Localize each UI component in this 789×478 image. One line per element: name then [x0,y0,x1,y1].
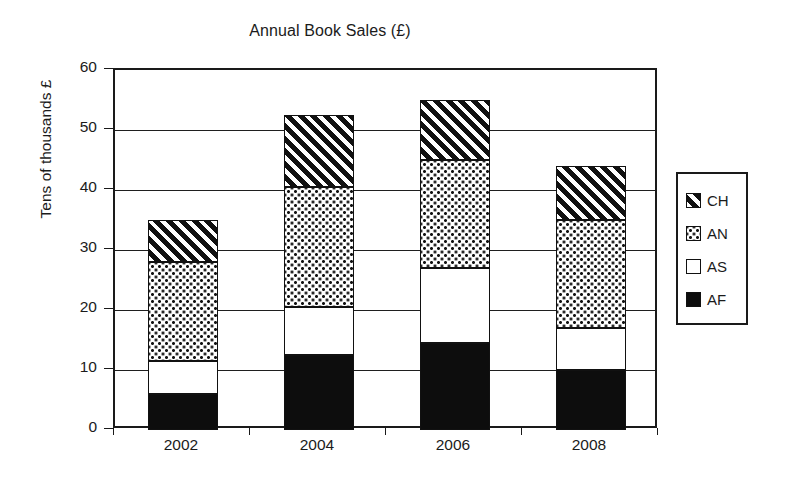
bar-segment-as[interactable] [148,361,218,394]
bar-segment-af[interactable] [420,343,490,430]
y-tick-label: 50 [51,118,97,136]
x-tick-label: 2006 [413,436,493,454]
bar-segment-af[interactable] [148,394,218,430]
x-tick-mark [385,428,386,435]
y-tick-mark [104,188,113,189]
y-tick-mark [104,248,113,249]
y-tick-mark [104,128,113,129]
y-tick-mark [104,368,113,369]
legend-label: AN [707,226,728,241]
y-tick-label: 40 [51,178,97,196]
legend-item-as[interactable]: AS [686,250,746,283]
bar-segment-af[interactable] [556,370,626,430]
legend-item-af[interactable]: AF [686,283,746,316]
x-tick-label: 2004 [277,436,357,454]
bar-segment-ch[interactable] [420,100,490,160]
legend-item-ch[interactable]: CH [686,184,746,217]
x-tick-mark [113,428,114,435]
chart-title: Annual Book Sales (£) [0,22,660,40]
legend-swatch-as [686,259,701,274]
y-tick-label: 10 [51,358,97,376]
y-tick-mark [104,68,113,69]
legend-swatch-ch [686,193,701,208]
legend-label: CH [707,193,729,208]
bar-segment-an[interactable] [284,187,354,307]
legend-label: AS [707,259,727,274]
legend: CHANASAF [676,172,748,325]
bar-segment-as[interactable] [556,328,626,370]
y-tick-mark [104,428,113,429]
y-tick-label: 20 [51,298,97,316]
y-tick-mark [104,308,113,309]
bar-stack[interactable] [420,70,490,430]
legend-swatch-af [686,292,701,307]
legend-item-an[interactable]: AN [686,217,746,250]
bar-segment-an[interactable] [556,220,626,328]
bar-segment-af[interactable] [284,355,354,430]
y-tick-label: 0 [51,418,97,436]
chart-container: Annual Book Sales (£) Tens of thousands … [0,0,789,478]
x-tick-mark [521,428,522,435]
bar-stack[interactable] [148,70,218,430]
legend-swatch-an [686,226,701,241]
plot-area [113,68,657,428]
bar-segment-ch[interactable] [556,166,626,220]
x-tick-mark [249,428,250,435]
x-tick-mark [657,428,658,435]
x-tick-label: 2002 [141,436,221,454]
bar-segment-an[interactable] [420,160,490,268]
legend-label: AF [707,292,726,307]
bar-stack[interactable] [556,70,626,430]
bar-segment-as[interactable] [420,268,490,343]
bar-segment-ch[interactable] [284,115,354,187]
bar-segment-as[interactable] [284,307,354,355]
bar-segment-an[interactable] [148,262,218,361]
bar-segment-ch[interactable] [148,220,218,262]
x-tick-label: 2008 [549,436,629,454]
y-tick-label: 30 [51,238,97,256]
legend-rows: CHANASAF [686,184,746,316]
bar-stack[interactable] [284,70,354,430]
y-tick-label: 60 [51,58,97,76]
